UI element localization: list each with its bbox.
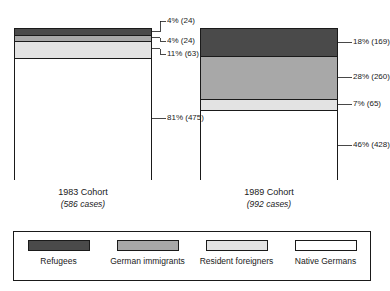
legend-swatch-refugees [28,240,90,251]
legend-label-german-immigrants: German immigrants [110,256,185,266]
callout-1989-refugees: 18% (169) [353,37,390,46]
callout-1983-refugees: 4% (24) [167,16,195,25]
callout-1989-resident-foreigners: 7% (65) [353,99,381,108]
callout-1989-native-germans: 46% (428) [353,140,390,149]
legend-swatch-german-immigrants [117,240,179,251]
callout-1983-resident-foreigners: 11% (63) [167,49,199,58]
segment-1989-resident-foreigners [201,99,337,110]
legend-item-resident-foreigners: Resident foreigners [192,240,281,266]
bar-group-1983: 1983 Cohort (586 cases) [14,28,152,180]
legend-item-native-germans: Native Germans [281,240,370,266]
segment-1989-native-germans [201,110,337,181]
cohort-cases-1989: (992 cases) [189,198,349,210]
legend-label-resident-foreigners: Resident foreigners [200,256,274,266]
bar-stack-1989 [200,28,338,180]
callout-1983-german-immigrants: 4% (24) [167,36,195,45]
segment-1989-refugees [201,29,337,56]
legend-item-german-immigrants: German immigrants [103,240,192,266]
cohort-name-1983: 1983 Cohort [3,186,163,198]
cohort-cases-1983: (586 cases) [3,198,163,210]
cohort-name-1989: 1989 Cohort [189,186,349,198]
callout-1983-native-germans: 81% (475) [167,113,204,122]
legend-swatch-native-germans [295,240,357,251]
bar-group-1989: 1989 Cohort (992 cases) [200,28,338,180]
legend-swatch-resident-foreigners [206,240,268,251]
cohort-caption-1989: 1989 Cohort (992 cases) [189,186,349,210]
segment-1983-resident-foreigners [15,41,151,58]
callout-1989-german-immigrants: 28% (260) [353,72,390,81]
chart-legend: Refugees German immigrants Resident fore… [13,231,371,281]
legend-item-refugees: Refugees [14,240,103,266]
segment-1989-german-immigrants [201,56,337,99]
segment-1983-native-germans [15,58,151,181]
cohort-caption-1983: 1983 Cohort (586 cases) [3,186,163,210]
plot-area: 1983 Cohort (586 cases) 1989 Cohort (992… [0,0,386,220]
bar-stack-1983 [14,28,152,180]
legend-label-refugees: Refugees [40,256,76,266]
legend-label-native-germans: Native Germans [295,256,356,266]
